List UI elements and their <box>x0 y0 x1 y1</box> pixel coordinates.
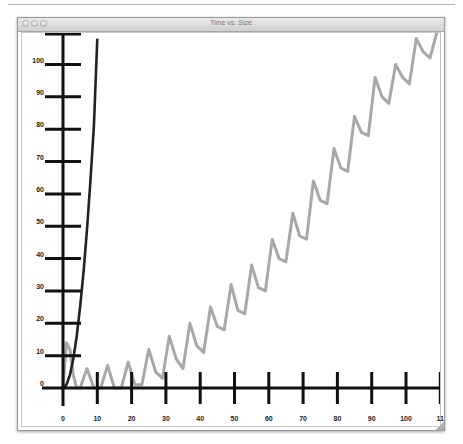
x-tick-label: 30 <box>162 415 170 422</box>
series-line-quadratic <box>63 39 97 388</box>
y-tick-label: 60 <box>36 186 44 193</box>
y-tick-label: 0 <box>40 380 44 387</box>
y-tick-label: 50 <box>36 218 44 225</box>
x-tick-label: 11 <box>437 415 445 422</box>
x-tick-label: 0 <box>61 415 65 422</box>
y-tick-label: 70 <box>36 154 44 161</box>
x-tick-label: 90 <box>368 415 376 422</box>
y-tick-label: 40 <box>36 251 44 258</box>
top-divider <box>8 4 455 5</box>
y-tick-label: 90 <box>36 89 44 96</box>
y-tick-label: 10 <box>36 348 44 355</box>
x-tick-label: 60 <box>265 415 273 422</box>
x-tick-label: 10 <box>93 415 101 422</box>
x-tick-label: 20 <box>128 415 136 422</box>
x-tick-label: 100 <box>400 415 412 422</box>
x-tick-label: 80 <box>334 415 342 422</box>
y-tick-label: 100 <box>32 57 44 64</box>
x-tick-label: 40 <box>196 415 204 422</box>
chart-canvas: 0102030405060708090100010203040506070809… <box>18 18 446 432</box>
y-tick-label: 30 <box>36 283 44 290</box>
x-tick-label: 70 <box>299 415 307 422</box>
plot-window: Time vs. Size 01020304050607080901000102… <box>17 17 445 431</box>
y-tick-label: 20 <box>36 315 44 322</box>
y-tick-label: 80 <box>36 121 44 128</box>
plot-area <box>42 32 446 406</box>
x-tick-label: 50 <box>231 415 239 422</box>
resize-grip[interactable] <box>436 422 444 430</box>
series-line-oscillating <box>63 32 437 388</box>
